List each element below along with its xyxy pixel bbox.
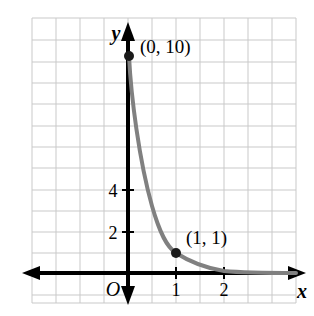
x-axis-label: x [296, 280, 307, 302]
x-tick-label-2: 2 [220, 280, 229, 300]
y-tick-label-2: 2 [109, 223, 118, 243]
graph-figure: y x O 1 2 2 4 (0, 10) (1, 1) [0, 0, 314, 316]
annotation-point-1-1: (1, 1) [186, 227, 227, 249]
y-axis-label: y [110, 22, 121, 45]
annotation-point-0-10: (0, 10) [140, 36, 191, 58]
data-point-0-10 [124, 51, 134, 61]
data-point-1-1 [171, 248, 181, 258]
x-tick-label-1: 1 [172, 280, 181, 300]
origin-label: O [106, 278, 120, 300]
coordinate-plane: y x O 1 2 2 4 (0, 10) (1, 1) [0, 0, 314, 316]
y-tick-label-4: 4 [109, 181, 118, 201]
